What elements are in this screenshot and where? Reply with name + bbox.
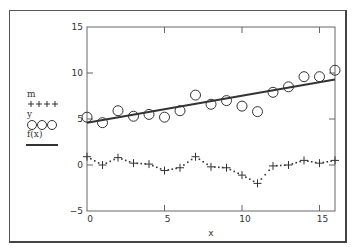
m-dot <box>230 169 232 171</box>
m-dot <box>237 172 239 174</box>
legend-label-fx: f(x) <box>27 129 42 139</box>
y-tick-label: 10 <box>72 68 84 78</box>
y-circle-marker <box>268 87 278 97</box>
axes: 051015−5051015 <box>70 22 335 224</box>
x-tick-label: 5 <box>165 214 171 224</box>
m-dot <box>311 161 313 163</box>
m-dot <box>245 176 247 178</box>
y-tick-label: 0 <box>77 160 83 170</box>
m-dot <box>292 163 294 165</box>
m-dot <box>218 167 220 169</box>
m-dot <box>156 167 158 169</box>
m-dot <box>206 164 208 166</box>
m-dot <box>191 159 193 161</box>
x-tick-label: 0 <box>87 214 93 224</box>
m-dot <box>140 163 142 165</box>
chart-plot: 051015−5051015 myf(x) x <box>0 0 355 252</box>
m-dot <box>125 160 127 162</box>
m-dot <box>187 161 189 163</box>
y-circle-marker <box>253 107 263 117</box>
y-circle-marker <box>237 101 247 111</box>
fx-line <box>87 79 335 122</box>
y-tick-label: 15 <box>72 22 83 32</box>
legend-label-y: y <box>26 109 33 119</box>
m-dot <box>121 158 123 160</box>
m-dot <box>199 158 201 160</box>
m-dot <box>94 160 96 162</box>
m-dot <box>326 161 328 163</box>
m-dot <box>90 158 92 160</box>
legend: myf(x) <box>26 89 58 145</box>
legend-label-m: m <box>27 89 36 99</box>
m-dot <box>233 171 235 173</box>
m-dot <box>268 169 270 171</box>
y-circle-marker <box>222 96 232 106</box>
x-axis-label: x <box>208 228 214 238</box>
m-dot <box>264 174 266 176</box>
plot-border <box>87 27 335 211</box>
m-dot <box>261 178 263 180</box>
m-dot <box>171 168 173 170</box>
plot-area <box>87 27 335 211</box>
m-dot <box>109 161 111 163</box>
m-dot <box>98 162 100 164</box>
m-dot <box>280 165 282 167</box>
m-dot <box>113 159 115 161</box>
series-layer <box>82 65 340 187</box>
legend-circle-icon <box>48 121 57 130</box>
x-tick-label: 10 <box>239 214 251 224</box>
y-circle-marker <box>299 72 309 82</box>
m-dot <box>152 165 154 167</box>
m-dot <box>129 161 131 163</box>
y-circle-marker <box>191 90 201 100</box>
y-tick-label: −5 <box>70 206 83 216</box>
y-circle-marker <box>315 72 325 82</box>
y-circle-marker <box>160 112 170 122</box>
m-dot <box>249 178 251 180</box>
y-circle-marker <box>113 106 123 116</box>
m-dot <box>160 168 162 170</box>
y-circle-marker <box>129 111 139 121</box>
m-dot <box>295 162 297 164</box>
x-tick-label: 15 <box>317 214 328 224</box>
m-dot <box>106 162 108 164</box>
m-dot <box>183 164 185 166</box>
m-dot <box>299 161 301 163</box>
m-dot <box>202 161 204 163</box>
m-dot <box>253 181 255 183</box>
